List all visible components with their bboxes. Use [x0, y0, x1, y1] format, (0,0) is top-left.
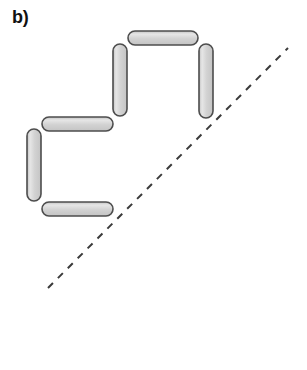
figure-panel: b): [0, 0, 307, 370]
bottom-horizontal-bar: [42, 202, 113, 216]
bars-layer: [27, 31, 213, 216]
upper-right-vertical-bar: [199, 44, 213, 118]
top-horizontal-bar: [128, 31, 198, 45]
middle-horizontal-bar: [42, 117, 113, 131]
diagonal-dashed-line: [48, 48, 288, 288]
left-vertical-bar: [27, 129, 41, 201]
staircase-diagram: [0, 0, 307, 370]
upper-left-vertical-bar: [113, 44, 127, 116]
